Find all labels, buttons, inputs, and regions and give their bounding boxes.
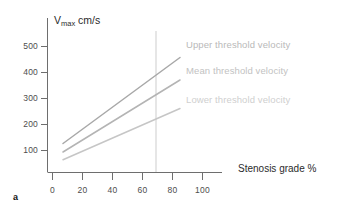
x-tick-label-60: 60 bbox=[127, 185, 158, 195]
y-tick-label-400: 400 bbox=[8, 67, 38, 77]
x-tick-label-0: 0 bbox=[37, 185, 68, 195]
series-line-upper-threshold-velocity bbox=[63, 58, 180, 144]
series-label-lower-threshold-velocity: Lower threshold velocity bbox=[186, 94, 290, 105]
figure-panel: Vmax cm/s Stenosis grade % 500 400 300 2… bbox=[0, 0, 341, 211]
y-tick-label-200: 200 bbox=[8, 119, 38, 129]
y-axis-title-subscript: max bbox=[61, 19, 75, 28]
x-tick-label-80: 80 bbox=[157, 185, 188, 195]
y-axis-title: Vmax cm/s bbox=[54, 14, 100, 26]
x-axis-title: Stenosis grade % bbox=[238, 163, 316, 174]
y-axis-title-unit: cm/s bbox=[75, 14, 100, 26]
figure-letter: a bbox=[13, 192, 18, 202]
y-axis-ticks bbox=[41, 47, 48, 151]
chart-canvas bbox=[0, 0, 341, 211]
x-tick-label-100: 100 bbox=[187, 185, 218, 195]
y-tick-label-300: 300 bbox=[8, 93, 38, 103]
y-tick-label-500: 500 bbox=[8, 41, 38, 51]
series-label-mean-threshold-velocity: Mean threshold velocity bbox=[186, 65, 288, 76]
series-label-upper-threshold-velocity: Upper threshold velocity bbox=[186, 39, 290, 50]
y-tick-label-100: 100 bbox=[8, 145, 38, 155]
y-axis-title-base: V bbox=[54, 14, 61, 26]
x-tick-label-20: 20 bbox=[67, 185, 98, 195]
x-tick-label-40: 40 bbox=[97, 185, 128, 195]
x-axis-ticks bbox=[53, 173, 203, 181]
